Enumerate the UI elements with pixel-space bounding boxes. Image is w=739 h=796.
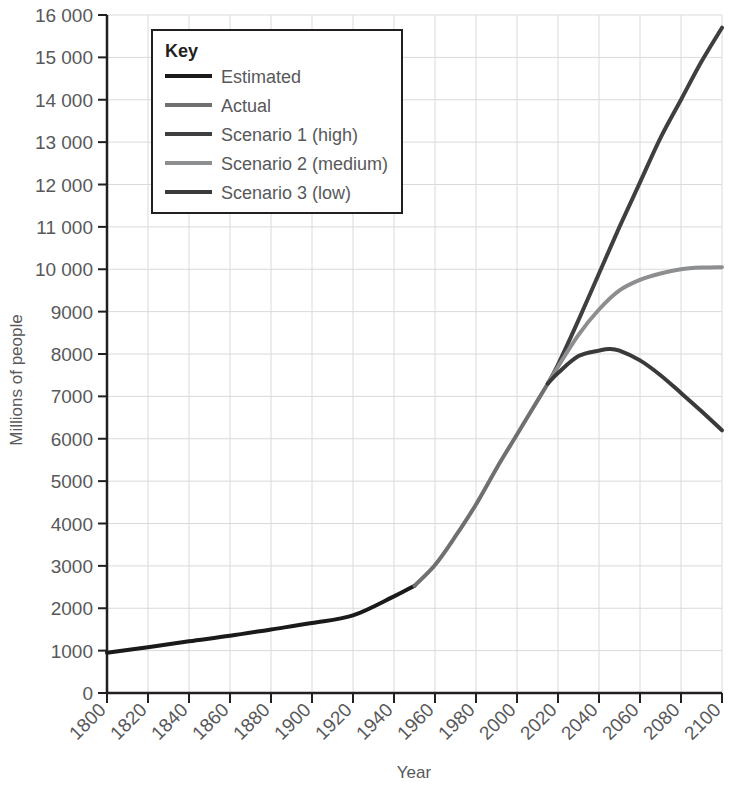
y-tick-label: 10 000 <box>35 259 93 280</box>
chart-canvas: 010002000300040005000600070008000900010 … <box>0 0 739 796</box>
y-tick-label: 9000 <box>51 302 93 323</box>
legend-label-3: Scenario 2 (medium) <box>221 154 388 174</box>
y-tick-label: 15 000 <box>35 47 93 68</box>
legend-label-4: Scenario 3 (low) <box>221 183 351 203</box>
y-tick-label: 5000 <box>51 471 93 492</box>
y-tick-label: 8000 <box>51 344 93 365</box>
chart-legend: KeyEstimatedActualScenario 1 (high)Scena… <box>152 30 402 213</box>
legend-title: Key <box>165 41 198 61</box>
y-tick-label: 11 000 <box>36 217 93 238</box>
y-tick-label: 14 000 <box>35 90 93 111</box>
y-tick-label: 16 000 <box>35 5 93 26</box>
legend-label-1: Actual <box>221 96 271 116</box>
y-tick-label: 1000 <box>51 641 93 662</box>
y-tick-label: 4000 <box>51 514 93 535</box>
legend-label-0: Estimated <box>221 67 301 87</box>
legend-label-2: Scenario 1 (high) <box>221 125 358 145</box>
y-tick-label: 13 000 <box>35 132 93 153</box>
y-tick-label: 3000 <box>51 556 93 577</box>
y-tick-label: 7000 <box>51 386 93 407</box>
y-tick-label: 0 <box>82 683 93 704</box>
x-axis-title: Year <box>397 763 432 782</box>
y-axis-title: Millions of people <box>7 314 26 445</box>
y-tick-label: 6000 <box>51 429 93 450</box>
y-tick-label: 2000 <box>51 598 93 619</box>
y-tick-label: 12 000 <box>35 175 93 196</box>
population-projection-chart: 010002000300040005000600070008000900010 … <box>0 0 739 796</box>
